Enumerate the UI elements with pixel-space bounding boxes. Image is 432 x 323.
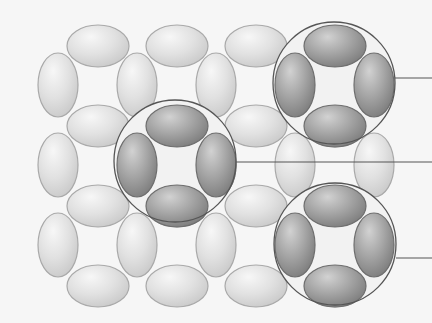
dark-horizontal-ellipse (304, 25, 366, 67)
dark-vertical-ellipse (117, 133, 157, 197)
dark-vertical-ellipse (275, 213, 315, 277)
dark-vertical-ellipse (354, 213, 394, 277)
horizontal-ellipse (225, 185, 287, 227)
vertical-ellipse (38, 133, 78, 197)
vertical-ellipse (38, 213, 78, 277)
lattice-diagram (0, 0, 432, 323)
vertical-ellipse (117, 213, 157, 277)
dark-horizontal-ellipse (146, 185, 208, 227)
diagram-canvas (0, 0, 432, 323)
bottom-right-group (274, 183, 396, 307)
vertical-ellipse (38, 53, 78, 117)
dark-vertical-ellipse (275, 53, 315, 117)
vertical-ellipse (354, 133, 394, 197)
horizontal-ellipse (225, 265, 287, 307)
horizontal-ellipse (67, 185, 129, 227)
horizontal-ellipse (67, 25, 129, 67)
dark-horizontal-ellipse (146, 105, 208, 147)
vertical-ellipse (196, 213, 236, 277)
horizontal-ellipse (225, 105, 287, 147)
dark-vertical-ellipse (354, 53, 394, 117)
horizontal-ellipse (146, 265, 208, 307)
horizontal-ellipse (146, 25, 208, 67)
horizontal-ellipse (67, 265, 129, 307)
vertical-ellipse (275, 133, 315, 197)
dark-horizontal-ellipse (304, 185, 366, 227)
